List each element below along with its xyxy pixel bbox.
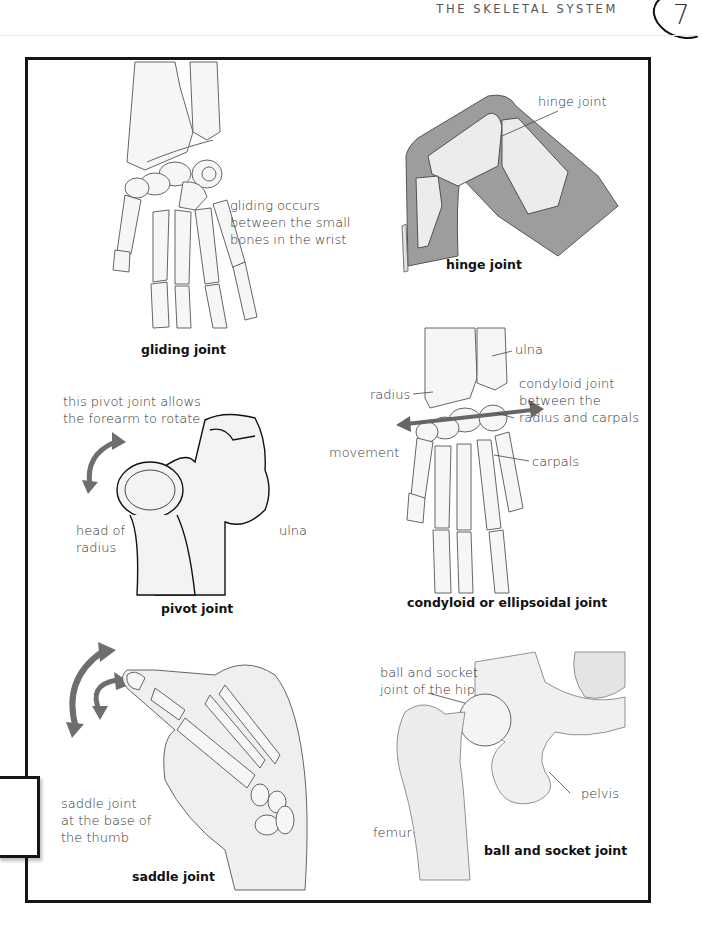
saddle-joint-illustration — [115, 660, 315, 890]
pelvis-label: pelvis — [581, 785, 619, 802]
condyloid-joint-label: condyloid joint between the radius and c… — [519, 375, 639, 426]
saddle-annotation: saddle joint at the base of the thumb — [61, 795, 151, 846]
ball-socket-joint-label: ball and socket joint of the hip — [380, 664, 478, 698]
condyloid-radius-label: radius — [370, 386, 410, 403]
side-tab — [0, 776, 40, 858]
ball-socket-joint-caption: ball and socket joint — [484, 843, 627, 858]
carpals-label: carpals — [532, 453, 579, 470]
condyloid-joint-caption: condyloid or ellipsoidal joint — [407, 595, 607, 610]
condyloid-ulna-label: ulna — [515, 341, 543, 358]
saddle-joint-caption: saddle joint — [132, 869, 215, 884]
femur-label: femur — [373, 824, 412, 841]
movement-label: movement — [329, 444, 399, 461]
